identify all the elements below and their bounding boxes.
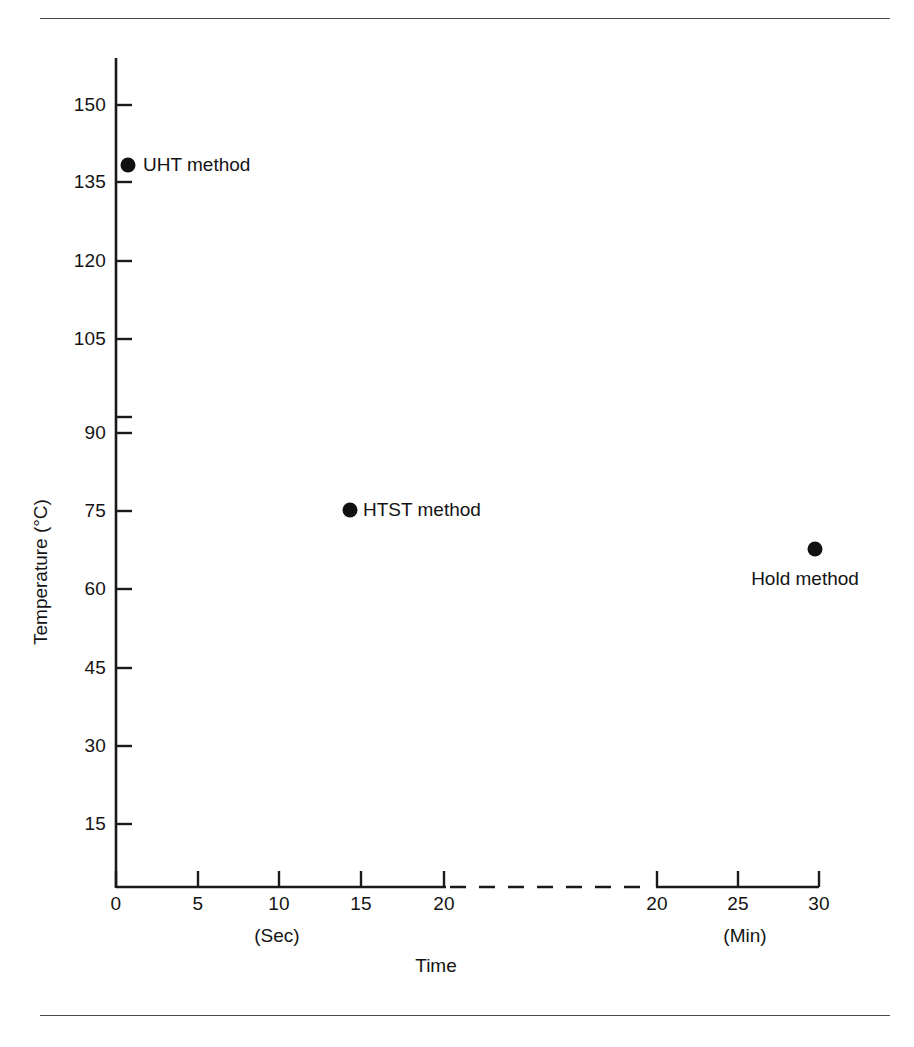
y-tick-label-90: 90 bbox=[44, 422, 106, 444]
y-tick-label-150: 150 bbox=[44, 94, 106, 116]
y-tick-label-135: 135 bbox=[44, 171, 106, 193]
x-tick-label-min-25: 25 bbox=[727, 893, 749, 915]
x-axis-ticks-seconds bbox=[116, 871, 444, 887]
y-tick-label-75: 75 bbox=[44, 500, 106, 522]
x-tick-label-sec-20: 20 bbox=[433, 893, 455, 915]
y-tick-label-45: 45 bbox=[44, 657, 106, 679]
x-tick-label-sec-5: 5 bbox=[193, 893, 204, 915]
y-axis-ticks bbox=[116, 105, 132, 824]
x-tick-label-sec-15: 15 bbox=[350, 893, 372, 915]
data-point-htst[interactable] bbox=[343, 503, 358, 518]
data-label-uht: UHT method bbox=[143, 154, 250, 176]
data-point-uht[interactable] bbox=[121, 158, 136, 173]
y-tick-label-15: 15 bbox=[44, 813, 106, 835]
x-axis-title: Time bbox=[415, 955, 457, 977]
data-label-htst: HTST method bbox=[363, 499, 481, 521]
x-tick-label-min-20: 20 bbox=[646, 893, 668, 915]
data-label-hold: Hold method bbox=[751, 568, 859, 590]
y-tick-label-30: 30 bbox=[44, 735, 106, 757]
y-tick-label-105: 105 bbox=[44, 328, 106, 350]
x-tick-label-sec-0: 0 bbox=[111, 893, 122, 915]
x-tick-label-min-30: 30 bbox=[808, 893, 830, 915]
x-axis-unit-seconds: (Sec) bbox=[254, 925, 299, 947]
x-tick-label-sec-10: 10 bbox=[268, 893, 290, 915]
data-point-hold[interactable] bbox=[808, 542, 823, 557]
x-axis-ticks-minutes bbox=[657, 871, 819, 887]
y-tick-label-60: 60 bbox=[44, 578, 106, 600]
x-axis-unit-minutes: (Min) bbox=[723, 925, 766, 947]
y-axis-title: Temperature (°C) bbox=[30, 499, 52, 645]
chart-canvas bbox=[0, 0, 914, 1047]
figure-container: 150 135 120 105 90 75 60 45 30 15 0 5 10… bbox=[0, 0, 914, 1047]
y-tick-label-120: 120 bbox=[44, 250, 106, 272]
